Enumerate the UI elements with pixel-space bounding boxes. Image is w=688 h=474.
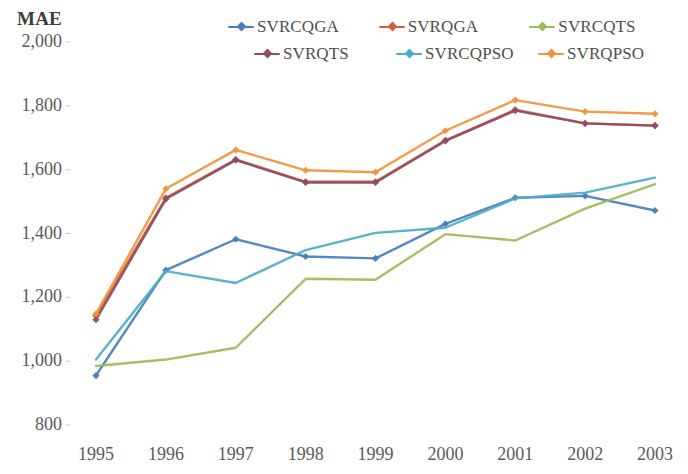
x-tick-label: 2000	[412, 444, 478, 465]
data-point-marker	[512, 107, 519, 114]
data-point-marker	[651, 122, 658, 129]
series-svrqpso	[92, 96, 658, 317]
y-tick-label: 1,600	[8, 159, 62, 180]
chart-container: MAE SVRCQGASVRQGASVRCQTS SVRQTSSVRCQPSOS…	[0, 0, 688, 474]
x-tick-label: 1999	[343, 444, 409, 465]
legend-swatch-icon	[379, 20, 405, 34]
series-line	[96, 178, 655, 360]
y-tick-label: 1,400	[8, 223, 62, 244]
x-tick-label: 1997	[203, 444, 269, 465]
y-tick-label: 800	[8, 414, 62, 435]
x-tick-label: 1998	[273, 444, 339, 465]
legend-swatch-icon	[228, 20, 254, 34]
x-tick-label: 2002	[552, 444, 618, 465]
series-svrcqpso	[96, 178, 655, 360]
series-line	[96, 184, 655, 366]
y-tick-label: 1,800	[8, 95, 62, 116]
series-line	[96, 110, 655, 316]
data-point-marker	[512, 96, 519, 103]
legend-swatch-icon	[529, 20, 555, 34]
series-svrcqga	[92, 192, 658, 379]
x-tick-label: 2003	[622, 444, 688, 465]
series-line	[96, 196, 655, 376]
plot-svg	[66, 36, 682, 436]
plot-area	[66, 36, 682, 436]
data-point-marker	[651, 207, 658, 214]
legend-label: SVRCQGA	[257, 17, 339, 37]
x-tick-label: 1996	[133, 444, 199, 465]
data-point-marker	[651, 110, 658, 117]
x-tick-label: 1995	[63, 444, 129, 465]
series-svrcqts	[96, 184, 655, 366]
data-point-marker	[302, 253, 309, 260]
data-point-marker	[582, 120, 589, 127]
data-point-marker	[232, 236, 239, 243]
data-point-marker	[302, 167, 309, 174]
series-line	[96, 100, 655, 314]
data-point-marker	[582, 108, 589, 115]
y-axis-title: MAE	[17, 8, 62, 30]
y-tick-label: 1,000	[8, 350, 62, 371]
legend-label: SVRQGA	[408, 17, 479, 37]
x-tick-label: 2001	[482, 444, 548, 465]
legend-label: SVRCQTS	[558, 17, 635, 37]
y-axis-ticks	[66, 42, 71, 425]
y-tick-label: 1,200	[8, 286, 62, 307]
y-tick-label: 2,000	[8, 31, 62, 52]
